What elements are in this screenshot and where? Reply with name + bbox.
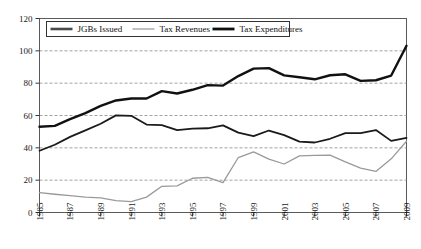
y-axis: 020406080100120 — [19, 14, 40, 218]
x-tick-label: 2003 — [310, 202, 320, 221]
chart-legend: JGBs IssuedTax RevenuesTax Expenditures — [47, 22, 304, 37]
x-tick-label: 1991 — [127, 203, 137, 221]
y-tick-label: 40 — [24, 143, 34, 153]
y-tick-label: 60 — [24, 111, 34, 121]
legend-label-tax-revenues: Tax Revenues — [160, 24, 211, 34]
y-tick-label: 20 — [24, 175, 34, 185]
x-tick-label: 1985 — [35, 202, 45, 221]
x-tick-label: 2005 — [341, 202, 351, 221]
x-tick-label: 2001 — [280, 203, 290, 221]
y-tick-label: 0 — [28, 208, 33, 218]
x-tick-label: 1999 — [249, 202, 259, 221]
x-tick-label: 2009 — [402, 202, 412, 221]
x-tick-label: 1995 — [188, 202, 198, 221]
x-tick-label: 1997 — [218, 202, 228, 221]
line-chart: 0204060801001201985198719891991199319951… — [0, 0, 421, 249]
x-tick-label: 1989 — [96, 202, 106, 221]
y-tick-label: 120 — [19, 14, 33, 24]
legend-label-jgbs-issued: JGBs Issued — [78, 24, 123, 34]
x-tick-label: 1987 — [65, 202, 75, 221]
y-tick-label: 80 — [24, 78, 34, 88]
chart-container: 0204060801001201985198719891991199319951… — [0, 0, 421, 249]
x-tick-label: 1993 — [157, 202, 167, 221]
y-tick-label: 100 — [19, 46, 33, 56]
legend-label-tax-expenditures: Tax Expenditures — [240, 24, 304, 34]
x-tick-label: 2007 — [371, 202, 381, 221]
